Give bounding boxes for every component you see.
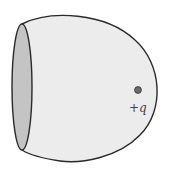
surface-diagram: +q [0,0,172,170]
surface-drawing: +q [0,0,172,170]
point-charge [135,87,142,94]
surface-opening [12,24,32,150]
charge-label: +q [129,101,147,115]
